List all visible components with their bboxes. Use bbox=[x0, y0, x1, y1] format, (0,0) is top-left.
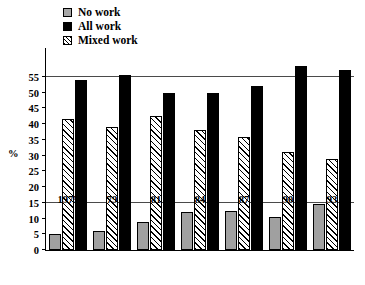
y-tick-label-0: 0 bbox=[34, 245, 39, 256]
mixed-swatch-icon bbox=[63, 36, 72, 45]
bar-all-work-1975 bbox=[75, 80, 87, 250]
bar-all-work-81 bbox=[163, 93, 175, 251]
allwork-swatch-icon bbox=[63, 22, 72, 31]
bar-no-work-87 bbox=[225, 211, 237, 250]
y-tick-label-10: 10 bbox=[29, 213, 40, 224]
legend-label-no-work: No work bbox=[78, 7, 121, 18]
bar-all-work-87 bbox=[251, 86, 263, 250]
bar-mixed-work-79 bbox=[106, 127, 118, 250]
bar-group-1975 bbox=[46, 61, 90, 250]
bar-mixed-work-84 bbox=[194, 130, 206, 250]
y-tick-label-25: 25 bbox=[29, 166, 40, 177]
y-tick-label-35: 35 bbox=[29, 134, 40, 145]
bar-all-work-93 bbox=[339, 70, 351, 250]
legend-item-all-work: All work bbox=[63, 20, 138, 33]
bar-no-work-81 bbox=[137, 222, 149, 250]
y-axis-title: % bbox=[8, 148, 19, 159]
x-tick-label-90: 90 bbox=[283, 194, 294, 205]
bar-no-work-90 bbox=[269, 217, 281, 250]
y-tick-label-30: 30 bbox=[29, 150, 40, 161]
bar-group-81 bbox=[134, 61, 178, 250]
bar-group-84 bbox=[178, 61, 222, 250]
bar-mixed-work-81 bbox=[150, 116, 162, 250]
y-tick-label-55: 55 bbox=[29, 71, 40, 82]
y-tick-label-50: 50 bbox=[29, 87, 40, 98]
y-tick-label-40: 40 bbox=[29, 119, 40, 130]
bar-group-90 bbox=[266, 61, 310, 250]
x-tick-label-81: 81 bbox=[151, 194, 162, 205]
bar-no-work-93 bbox=[313, 204, 325, 250]
bar-group-87 bbox=[222, 61, 266, 250]
x-axis-line bbox=[45, 250, 354, 251]
legend-label-mixed-work: Mixed work bbox=[78, 35, 138, 46]
bar-mixed-work-1975 bbox=[62, 119, 74, 250]
y-tick-label-5: 5 bbox=[34, 229, 39, 240]
nowork-swatch-icon bbox=[63, 8, 72, 17]
y-tick-label-45: 45 bbox=[29, 103, 40, 114]
y-tick-label-20: 20 bbox=[29, 182, 40, 193]
bar-all-work-84 bbox=[207, 93, 219, 251]
bar-no-work-84 bbox=[181, 212, 193, 250]
x-tick-label-93: 93 bbox=[327, 194, 338, 205]
bar-all-work-90 bbox=[295, 66, 307, 250]
plot-area: 0510152025303540455055 bbox=[46, 61, 354, 250]
x-tick-label-1975: 1975 bbox=[58, 194, 79, 205]
bar-all-work-79 bbox=[119, 75, 131, 250]
x-tick-label-79: 79 bbox=[107, 194, 118, 205]
bar-group-93 bbox=[310, 61, 354, 250]
bar-chart: No work All work Mixed work % 0510152025… bbox=[0, 0, 365, 285]
legend-item-no-work: No work bbox=[63, 6, 138, 19]
y-tick-label-15: 15 bbox=[29, 197, 40, 208]
bar-group-79 bbox=[90, 61, 134, 250]
legend-item-mixed-work: Mixed work bbox=[63, 34, 138, 47]
legend-label-all-work: All work bbox=[78, 21, 121, 32]
bar-no-work-79 bbox=[93, 231, 105, 250]
x-tick-label-87: 87 bbox=[239, 194, 250, 205]
chart-legend: No work All work Mixed work bbox=[63, 6, 138, 47]
bar-no-work-1975 bbox=[49, 234, 61, 250]
x-tick-label-84: 84 bbox=[195, 194, 206, 205]
